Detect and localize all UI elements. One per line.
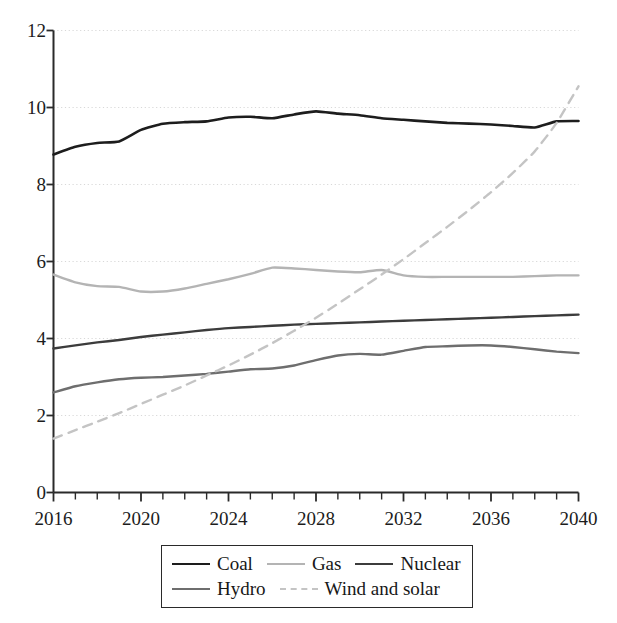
x-axis-tick-label: 2032 bbox=[369, 509, 439, 528]
x-axis-tick-label: 2040 bbox=[544, 509, 614, 528]
legend-item-nuclear[interactable]: Nuclear bbox=[355, 554, 460, 574]
legend-swatch-icon bbox=[172, 588, 210, 590]
legend-label: Nuclear bbox=[400, 554, 460, 574]
legend-item-hydro[interactable]: Hydro bbox=[172, 579, 266, 599]
legend-label: Coal bbox=[217, 554, 253, 574]
legend-label: Wind and solar bbox=[325, 579, 440, 599]
legend-swatch-icon bbox=[172, 563, 210, 565]
x-axis-tick-labels: 2016202020242028203220362040 bbox=[0, 0, 617, 623]
x-axis-tick-label: 2036 bbox=[456, 509, 526, 528]
chart-legend: CoalGasNuclearHydroWind and solar bbox=[161, 545, 473, 608]
legend-item-gas[interactable]: Gas bbox=[267, 554, 342, 574]
legend-row: CoalGasNuclear bbox=[172, 551, 462, 576]
legend-label: Hydro bbox=[217, 579, 266, 599]
legend-label: Gas bbox=[312, 554, 342, 574]
x-axis-tick-label: 2028 bbox=[281, 509, 351, 528]
x-axis-tick-label: 2020 bbox=[106, 509, 176, 528]
legend-swatch-icon bbox=[280, 588, 318, 590]
legend-swatch-icon bbox=[355, 563, 393, 565]
legend-swatch-icon bbox=[267, 563, 305, 565]
legend-item-wind-and-solar[interactable]: Wind and solar bbox=[280, 579, 440, 599]
x-axis-tick-label: 2016 bbox=[19, 509, 89, 528]
x-axis-tick-label: 2024 bbox=[194, 509, 264, 528]
legend-item-coal[interactable]: Coal bbox=[172, 554, 253, 574]
chart-figure: 024681012 2016202020242028203220362040 C… bbox=[0, 0, 617, 623]
legend-row: HydroWind and solar bbox=[172, 576, 462, 601]
